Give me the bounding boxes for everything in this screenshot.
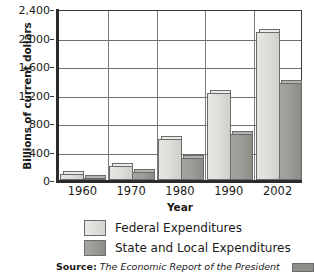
y-tick-label: 1,200: [19, 89, 51, 102]
x-tick-label: 1980: [165, 184, 194, 198]
x-tick-label: 1990: [214, 184, 243, 198]
bar-front-face: [131, 172, 155, 180]
y-tick-mark: [50, 124, 54, 125]
bar-front-face: [207, 93, 231, 180]
y-tick-label: 2,000: [19, 32, 51, 45]
plot-area: [58, 10, 302, 181]
y-tick-mark: [50, 181, 54, 182]
bar-state-local-1980: [180, 155, 204, 180]
bar-state-local-1990: [229, 131, 253, 180]
y-tick-label: 800: [29, 118, 50, 131]
bar-front-face: [180, 158, 204, 180]
bar-front-face: [229, 134, 253, 180]
y-tick-label: 0: [43, 175, 50, 188]
bar-front-face: [158, 139, 182, 180]
chart-legend: Federal ExpendituresState and Local Expe…: [84, 218, 314, 258]
bar-front-face: [278, 83, 302, 180]
bar-federal-1960: [60, 171, 84, 180]
y-tick-mark: [50, 39, 54, 40]
bar-federal-2002: [256, 29, 280, 180]
source-marker-icon: [292, 263, 314, 272]
y-tick-mark: [50, 153, 54, 154]
legend-label: State and Local Expenditures: [115, 241, 291, 255]
legend-swatch-state: [84, 240, 106, 256]
legend-label: Federal Expenditures: [115, 221, 242, 235]
legend-item-federal: Federal Expenditures: [84, 218, 314, 237]
legend-swatch-federal: [84, 220, 106, 236]
x-tick-label: 2002: [263, 184, 292, 198]
x-tick-label: 1970: [117, 184, 146, 198]
legend-item-state: State and Local Expenditures: [84, 238, 314, 257]
y-tick-mark: [50, 10, 54, 11]
x-tick-label: 1960: [68, 184, 97, 198]
source-text: The Economic Report of the President: [100, 261, 280, 272]
bar-front-face: [109, 166, 133, 180]
plot-wrap: [58, 10, 302, 181]
bar-chart-figure: Billions of current dollars 04008001,200…: [0, 0, 314, 277]
bars-layer: [59, 11, 301, 180]
y-tick-mark: [50, 67, 54, 68]
source-label: Source:: [56, 261, 97, 272]
source-line: Source: The Economic Report of the Presi…: [56, 261, 314, 272]
bar-federal-1980: [158, 136, 182, 180]
bar-front-face: [82, 178, 106, 180]
bar-front-face: [60, 174, 84, 180]
y-tick-label: 1,600: [19, 61, 51, 74]
bar-state-local-2002: [278, 80, 302, 180]
y-tick-label: 2,400: [19, 4, 51, 17]
y-tick-mark: [50, 96, 54, 97]
x-axis-title: Year: [58, 201, 302, 213]
x-axis-tick-labels: 19601970198019902002: [58, 184, 302, 202]
bar-federal-1970: [109, 163, 133, 180]
y-axis-line: [56, 9, 59, 183]
y-tick-label: 400: [29, 146, 50, 159]
bar-state-local-1970: [131, 169, 155, 180]
bar-federal-1990: [207, 90, 231, 180]
bar-state-local-1960: [82, 175, 106, 180]
bar-front-face: [256, 32, 280, 180]
y-axis-tick-labels: 04008001,2001,6002,0002,400: [0, 0, 54, 277]
